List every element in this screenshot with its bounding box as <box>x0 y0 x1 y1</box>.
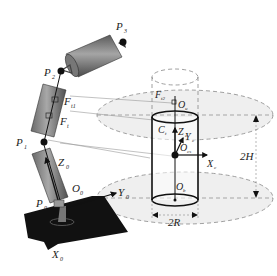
link-3 <box>62 35 126 78</box>
svg-text:P: P <box>35 197 43 209</box>
svg-text:t2: t2 <box>161 96 165 101</box>
svg-text:0: 0 <box>126 194 129 200</box>
svg-text:Z: Z <box>178 126 184 137</box>
svg-text:cs: cs <box>187 149 191 154</box>
label-p0: P0 <box>35 197 47 211</box>
label-2h: 2H <box>240 150 255 162</box>
label-2r: 2R <box>168 216 181 228</box>
svg-text:Z: Z <box>58 156 65 168</box>
svg-text:3: 3 <box>123 28 127 34</box>
svg-text:0: 0 <box>66 164 69 170</box>
label-p3: P3 <box>115 20 127 34</box>
cylinder-origin-dot <box>172 152 179 159</box>
label-p1: P1 <box>15 136 27 150</box>
svg-text:P: P <box>115 20 123 32</box>
joint-p3 <box>120 39 127 46</box>
label-ft: Ft <box>59 115 69 129</box>
label-p2: P2 <box>43 66 55 80</box>
label-xc: Xc <box>206 158 217 170</box>
joint-p2 <box>58 68 65 75</box>
svg-text:X: X <box>206 158 214 169</box>
svg-text:0: 0 <box>60 256 63 262</box>
svg-text:0: 0 <box>80 190 83 196</box>
label-z0: Z0 <box>58 156 69 170</box>
link-2 <box>31 71 66 142</box>
svg-text:X: X <box>51 248 60 260</box>
joint-p1 <box>41 139 48 146</box>
svg-text:t: t <box>67 123 69 129</box>
svg-text:t1: t1 <box>71 103 76 109</box>
svg-text:0: 0 <box>44 205 47 211</box>
svg-text:P: P <box>43 66 51 78</box>
svg-text:1: 1 <box>24 144 27 150</box>
svg-text:P: P <box>15 136 23 148</box>
label-x0: X0 <box>51 248 63 262</box>
svg-text:c: c <box>214 165 217 170</box>
svg-text:F: F <box>63 95 71 107</box>
label-ft1: Ft1 <box>63 95 76 109</box>
svg-text:F: F <box>59 115 67 127</box>
svg-text:2: 2 <box>52 74 55 80</box>
diagram-canvas: P3 P2 P1 P0 Z0 O0 Y0 X0 Ft1 Ft Ft2 Ou Ct… <box>0 0 277 276</box>
label-o0: O0 <box>72 182 83 196</box>
cylinder-bottom-dot <box>174 199 177 202</box>
svg-text:O: O <box>72 182 80 194</box>
svg-text:C: C <box>158 124 165 135</box>
joint-p0 <box>54 200 64 207</box>
